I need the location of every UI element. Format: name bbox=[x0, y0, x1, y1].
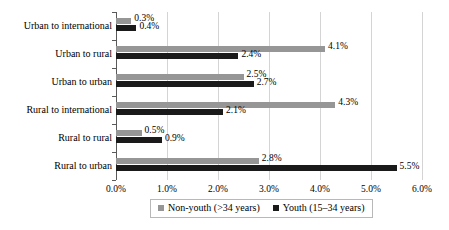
x-axis-tick-label: 6.0% bbox=[402, 184, 442, 195]
category-label: Urban to rural bbox=[2, 48, 112, 60]
bar-youth bbox=[116, 81, 254, 87]
bar-group: Rural to international4.3%2.1% bbox=[116, 96, 422, 124]
bar-group: Rural to rural0.5%0.9% bbox=[116, 124, 422, 152]
category-label: Rural to international bbox=[2, 104, 112, 116]
x-axis-tick-label: 3.0% bbox=[249, 184, 289, 195]
x-axis-tick-label: 1.0% bbox=[147, 184, 187, 195]
x-axis-tick-label: 2.0% bbox=[198, 184, 238, 195]
bar-value-label: 5.5% bbox=[400, 161, 420, 172]
bar-youth bbox=[116, 109, 223, 115]
legend-item-non-youth: Non-youth (>34 years) bbox=[158, 202, 260, 214]
gridline bbox=[422, 12, 423, 180]
bar-youth bbox=[116, 53, 238, 59]
category-axis-tick bbox=[112, 180, 116, 181]
x-axis-tick-label: 0.0% bbox=[96, 184, 136, 195]
bar-value-label: 0.4% bbox=[139, 21, 159, 32]
x-axis-tick-label: 5.0% bbox=[351, 184, 391, 195]
bar-chart: 0.0%1.0%2.0%3.0%4.0%5.0%6.0%Urban to int… bbox=[0, 0, 449, 230]
legend-label-non-youth: Non-youth (>34 years) bbox=[168, 202, 260, 214]
legend-item-youth: Youth (15–34 years) bbox=[273, 202, 365, 214]
bar-value-label: 2.7% bbox=[257, 77, 277, 88]
bar-group: Urban to international0.3%0.4% bbox=[116, 12, 422, 40]
bar-value-label: 4.3% bbox=[338, 97, 358, 108]
category-axis-tick bbox=[112, 68, 116, 69]
category-axis-tick bbox=[112, 40, 116, 41]
bar-youth bbox=[116, 25, 136, 31]
bar-group: Urban to rural4.1%2.4% bbox=[116, 40, 422, 68]
category-label: Rural to urban bbox=[2, 160, 112, 172]
category-axis-tick bbox=[112, 96, 116, 97]
bar-youth bbox=[116, 165, 397, 171]
category-axis-tick bbox=[112, 12, 116, 13]
bar-value-label: 2.8% bbox=[262, 153, 282, 164]
bar-youth bbox=[116, 137, 162, 143]
category-axis-tick bbox=[112, 152, 116, 153]
bar-value-label: 2.4% bbox=[241, 49, 261, 60]
bar-nonyouth bbox=[116, 46, 325, 52]
category-label: Rural to rural bbox=[2, 132, 112, 144]
category-label: Urban to urban bbox=[2, 76, 112, 88]
bar-nonyouth bbox=[116, 130, 142, 136]
legend-swatch-youth bbox=[273, 205, 279, 211]
bar-value-label: 0.5% bbox=[145, 125, 165, 136]
chart-legend: Non-youth (>34 years) Youth (15–34 years… bbox=[150, 199, 373, 218]
plot-area: 0.0%1.0%2.0%3.0%4.0%5.0%6.0%Urban to int… bbox=[116, 12, 422, 180]
category-axis-tick bbox=[112, 124, 116, 125]
x-axis-tick-label: 4.0% bbox=[300, 184, 340, 195]
bar-group: Rural to urban2.8%5.5% bbox=[116, 152, 422, 180]
bar-group: Urban to urban2.5%2.7% bbox=[116, 68, 422, 96]
bar-nonyouth bbox=[116, 74, 244, 80]
legend-label-youth: Youth (15–34 years) bbox=[283, 202, 365, 214]
category-label: Urban to international bbox=[2, 20, 112, 32]
bar-value-label: 2.1% bbox=[226, 105, 246, 116]
bar-nonyouth bbox=[116, 18, 131, 24]
bar-value-label: 0.9% bbox=[165, 133, 185, 144]
legend-swatch-non-youth bbox=[158, 205, 164, 211]
bar-nonyouth bbox=[116, 158, 259, 164]
bar-value-label: 4.1% bbox=[328, 41, 348, 52]
